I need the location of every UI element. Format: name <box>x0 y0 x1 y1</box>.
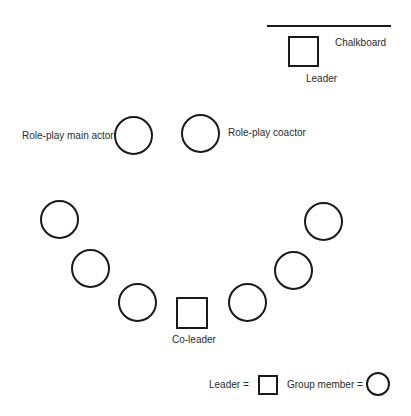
group-member-circle-1 <box>40 200 79 239</box>
group-member-circle-5 <box>274 251 313 290</box>
legend-leader-square <box>258 375 278 395</box>
chalkboard-line <box>267 25 391 27</box>
group-member-circle-2 <box>71 249 110 288</box>
co-leader-label: Co-leader <box>172 334 216 346</box>
group-member-circle-6 <box>304 202 343 241</box>
group-member-circle-4 <box>228 283 267 322</box>
legend-member-label: Group member = <box>287 379 363 391</box>
leader-square <box>288 36 319 67</box>
legend-member-circle <box>366 372 390 396</box>
co-leader-square <box>176 297 208 329</box>
main-actor-circle <box>114 116 153 155</box>
coactor-label: Role-play coactor <box>228 127 306 139</box>
main-actor-label: Role-play main actor <box>22 130 114 142</box>
group-member-circle-3 <box>118 283 157 322</box>
chalkboard-label: Chalkboard <box>335 37 386 49</box>
coactor-circle <box>181 114 220 153</box>
leader-label: Leader <box>306 73 337 85</box>
legend-leader-label: Leader = <box>209 379 249 391</box>
